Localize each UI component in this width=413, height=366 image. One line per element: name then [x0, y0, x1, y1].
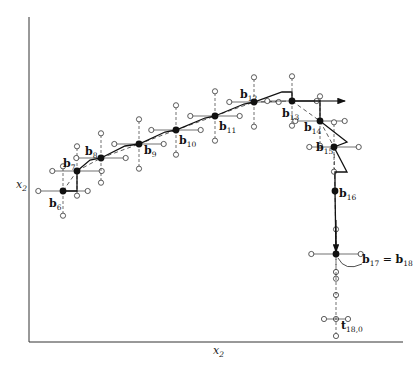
- base-point-b6: [60, 188, 67, 195]
- label-b6: b6: [49, 197, 62, 212]
- probe-circle: [60, 213, 65, 218]
- probe-circle: [74, 155, 79, 160]
- probe-circle: [289, 74, 294, 79]
- probe-circle: [136, 166, 141, 171]
- probe-circle: [309, 251, 314, 256]
- probe-circle: [36, 188, 41, 193]
- base-point-b8: [98, 155, 105, 162]
- probe-circle: [50, 168, 55, 173]
- probe-circle: [265, 98, 270, 103]
- annotation-leader: [338, 258, 362, 267]
- probe-circle: [276, 99, 281, 104]
- base-point-b14: [317, 118, 324, 125]
- probe-circle: [333, 333, 338, 338]
- probe-circle: [123, 155, 128, 160]
- exploratory-probes: [36, 74, 364, 339]
- probe-circle: [289, 123, 294, 128]
- probe-circle: [98, 131, 103, 136]
- label-b12: b12: [240, 88, 257, 103]
- probe-circle: [317, 94, 322, 99]
- probe-circle: [251, 75, 256, 80]
- label-b13: b13: [282, 107, 299, 122]
- probe-circle: [198, 127, 203, 132]
- pattern-move-dash: [63, 171, 77, 191]
- label-b15: b15: [316, 141, 333, 156]
- probe-circle: [212, 89, 217, 94]
- x-axis-label: x2: [213, 344, 224, 359]
- probe-circle: [342, 118, 347, 123]
- t18-label: t18,0: [341, 319, 363, 334]
- base-point-labels: b6b7b8b9b10b11b12b13b14b15b16: [49, 88, 356, 212]
- probe-circle: [112, 141, 117, 146]
- probe-circle: [136, 117, 141, 122]
- probe-circle: [307, 144, 312, 149]
- base-point-b13: [289, 98, 296, 105]
- label-b10: b10: [179, 134, 196, 149]
- probe-circle: [212, 138, 217, 143]
- y-axis-label: x2: [16, 178, 27, 193]
- b17-b18-label: b17 = b18: [362, 253, 413, 268]
- probe-circle: [251, 124, 256, 129]
- probe-circle: [149, 127, 154, 132]
- label-b16: b16: [339, 187, 356, 202]
- probe-circle: [85, 188, 90, 193]
- probe-circle: [331, 120, 336, 125]
- pattern-move-dash: [101, 144, 139, 158]
- probe-circle: [99, 168, 104, 173]
- base-point-b9: [136, 141, 143, 148]
- probe-circle: [173, 103, 178, 108]
- probe-circle: [227, 99, 232, 104]
- probe-circle: [173, 152, 178, 157]
- base-point-b16: [332, 188, 339, 195]
- pattern-search-diagram: x2 x2 b6b7b8b9b10b11b12b13b14b15b16 b17 …: [0, 0, 413, 366]
- probe-circle: [188, 113, 193, 118]
- label-b11: b11: [219, 120, 236, 135]
- base-point-b11: [212, 113, 219, 120]
- probe-circle: [74, 144, 79, 149]
- base-point-b10: [173, 127, 180, 134]
- probe-circle: [237, 113, 242, 118]
- probe-circle: [161, 141, 166, 146]
- probe-circle: [98, 180, 103, 185]
- probe-circle: [356, 144, 361, 149]
- probe-circle: [74, 193, 79, 198]
- label-b9: b9: [144, 144, 157, 159]
- label-b8: b8: [85, 145, 98, 160]
- probe-circle: [345, 316, 350, 321]
- base-point-b17: [333, 251, 340, 258]
- probe-circle: [321, 316, 326, 321]
